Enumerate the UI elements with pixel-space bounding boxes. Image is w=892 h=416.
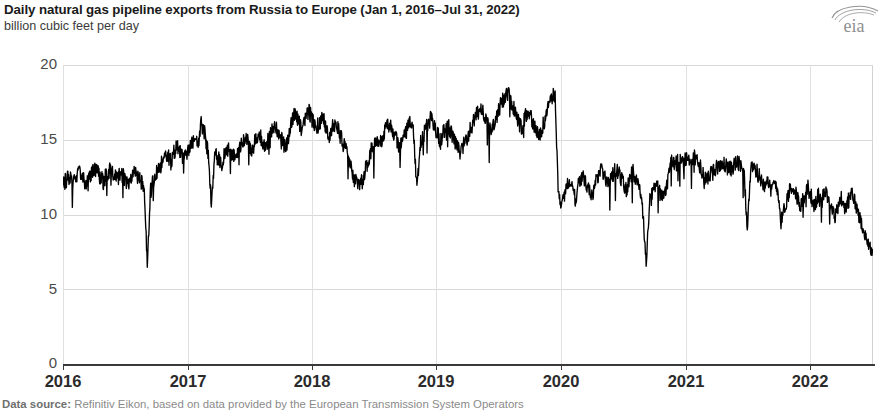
y-tick-label-20: 20 [5, 56, 57, 71]
x-tick-label-2021: 2021 [668, 372, 705, 391]
x-tick-2017 [188, 364, 189, 370]
y-axis-labels: 20 15 10 5 0 [0, 0, 57, 416]
x-tick-2019 [436, 364, 437, 370]
x-tick-label-2019: 2019 [418, 372, 455, 391]
x-tick-label-2017: 2017 [170, 372, 207, 391]
x-axis-line [63, 364, 875, 366]
data-source-text: Refinitiv Eikon, based on data provided … [71, 398, 524, 410]
x-tick-2016 [63, 364, 64, 370]
y-tick-label-15: 15 [5, 131, 57, 146]
eia-logo: eia [826, 1, 884, 37]
chart-title: Daily natural gas pipeline exports from … [4, 2, 520, 17]
x-tick-label-2020: 2020 [543, 372, 580, 391]
x-tick-2022 [810, 364, 811, 370]
y-tick-label-0: 0 [5, 355, 57, 370]
x-tick-label-2016: 2016 [45, 372, 82, 391]
x-tick-label-2018: 2018 [294, 372, 331, 391]
y-tick-label-10: 10 [5, 206, 57, 221]
data-source-label: Data source: [2, 398, 71, 410]
data-source-note: Data source: Refinitiv Eikon, based on d… [2, 398, 524, 410]
x-tick-2018 [312, 364, 313, 370]
y-tick-label-5: 5 [5, 281, 57, 296]
chart-figure: Daily natural gas pipeline exports from … [0, 0, 892, 416]
data-series-line [63, 65, 873, 364]
series-polyline [63, 88, 873, 268]
x-tick-label-2022: 2022 [792, 372, 829, 391]
x-tick-2020 [561, 364, 562, 370]
x-tick-2021 [686, 364, 687, 370]
eia-logo-text: eia [844, 16, 865, 36]
